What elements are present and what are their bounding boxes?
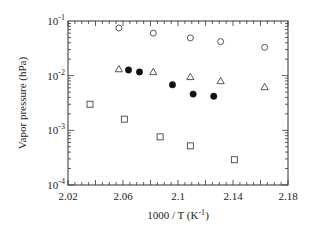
x-axis-tick-labels: 2.022.062.12.142.18 (58, 190, 298, 202)
y-tick-label: 10-2 (47, 68, 65, 82)
open-triangle-marker (187, 73, 194, 79)
y-tick-label: 10-3 (47, 122, 65, 136)
open-square-marker (121, 116, 127, 122)
x-tick-label: 2.06 (113, 190, 133, 202)
open-triangle-marker (261, 83, 268, 89)
open-triangle-marker (115, 65, 122, 71)
open-triangle-marker (217, 77, 224, 83)
filled-circle-marker (169, 82, 175, 88)
plot-border (68, 21, 288, 185)
open-circle-marker (262, 44, 268, 50)
plot-frame (68, 21, 288, 185)
filled-circle-marker (190, 91, 196, 97)
open-circle-marker (218, 39, 224, 45)
x-axis-ticks (68, 21, 288, 185)
x-tick-label: 2.02 (58, 190, 77, 202)
y-axis-title: Vapor pressure (hPa) (16, 57, 29, 150)
open-triangle-marker (150, 68, 157, 74)
x-tick-label: 2.14 (223, 190, 243, 202)
y-tick-label: 10-1 (47, 13, 65, 27)
x-tick-label: 2.1 (171, 190, 185, 202)
open-square-marker (231, 157, 237, 163)
x-tick-label: 2.18 (278, 190, 298, 202)
filled-circle-marker (136, 69, 142, 75)
open-circle-marker (187, 35, 193, 41)
open-square-marker (187, 143, 193, 149)
y-tick-label: 10-4 (47, 177, 65, 191)
y-axis-tick-labels: 10-110-210-310-4 (47, 13, 65, 191)
y-axis-ticks (68, 24, 288, 185)
open-square-marker (87, 101, 93, 107)
x-axis-title: 1000 / T (K-1) (147, 208, 209, 222)
data-markers (87, 25, 268, 163)
open-circle-marker (116, 25, 122, 31)
filled-circle-marker (211, 93, 217, 99)
open-square-marker (157, 134, 163, 140)
vapor-pressure-chart: 2.022.062.12.142.18 10-110-210-310-4 100… (0, 0, 314, 233)
filled-circle-marker (125, 67, 131, 73)
open-circle-marker (150, 30, 156, 36)
